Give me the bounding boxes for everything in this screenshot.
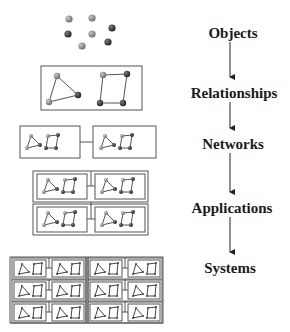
relationships-box [41, 66, 142, 110]
stage-label-systems: Systems [204, 260, 256, 277]
object-node [108, 24, 115, 31]
objects-cluster [64, 14, 115, 49]
object-node [64, 30, 71, 37]
stage-label-networks: Networks [202, 136, 264, 153]
networks-row [20, 126, 156, 158]
object-node [78, 42, 85, 49]
stage-label-applications: Applications [192, 200, 273, 217]
stage-label-objects: Objects [208, 25, 257, 42]
systems-grid [10, 257, 163, 323]
applications-stack [33, 171, 148, 235]
object-node [65, 15, 72, 22]
object-node [88, 30, 95, 37]
triangle-relationship [46, 73, 81, 105]
object-node [88, 14, 95, 21]
object-node [104, 38, 111, 45]
hierarchy-diagram [0, 0, 290, 332]
stage-label-relationships: Relationships [191, 85, 278, 102]
square-relationship [97, 71, 130, 106]
